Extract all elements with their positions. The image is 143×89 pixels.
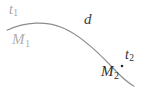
diagram-canvas: t1 M1 d t2 M2: [0, 0, 143, 89]
start-mass-subscript: 1: [25, 38, 30, 49]
end-time-subscript: 2: [129, 53, 134, 63]
position-dot: [121, 65, 124, 68]
start-time-label: t1: [9, 3, 18, 17]
end-mass-subscript: 2: [114, 70, 119, 81]
start-mass-label: M1: [12, 32, 30, 47]
end-mass-symbol: M: [101, 63, 114, 79]
start-mass-symbol: M: [12, 31, 25, 47]
distance-label: d: [84, 12, 92, 27]
start-time-subscript: 1: [13, 8, 18, 18]
end-time-label: t2: [125, 48, 134, 62]
end-mass-label: M2: [101, 64, 119, 79]
